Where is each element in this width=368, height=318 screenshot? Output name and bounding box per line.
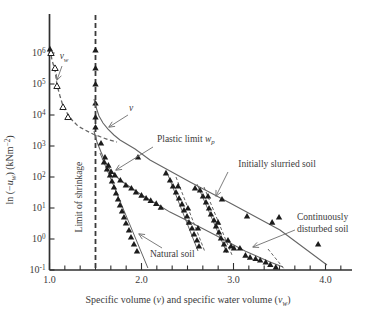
annotation-continuously-disturbed-label-2: disturbed soil <box>297 224 349 234</box>
chart-canvas: 1.02.03.04.010610510410310210110010-1Spe… <box>0 0 368 318</box>
leader-arrow <box>253 230 295 247</box>
triangle-marker <box>47 46 53 52</box>
triangle-marker <box>189 225 195 231</box>
triangle-marker <box>131 241 137 247</box>
series-natural-soil-line <box>100 153 148 268</box>
leader-arrow <box>109 115 128 127</box>
triangle-marker <box>197 187 203 193</box>
triangle-marker <box>191 231 197 237</box>
triangle-marker <box>184 213 190 219</box>
y-tick-label-10e0: 100 <box>32 233 46 245</box>
suction-specific-volume-figure: 1.02.03.04.010610510410310210110010-1Spe… <box>0 0 368 318</box>
y-tick-label-10e5: 105 <box>32 78 46 90</box>
y-tick-label-10e1: 101 <box>32 202 46 214</box>
y-ticks: 10610510410310210110010-1 <box>30 47 55 276</box>
triangle-marker <box>196 243 202 249</box>
annotation-text-natural-soil-label: Natural soil <box>150 249 195 259</box>
annotation-text-vw-label: vw <box>60 51 69 63</box>
triangle-marker <box>153 200 159 206</box>
triangle-marker <box>109 178 115 184</box>
y-tick-label-10e2: 102 <box>32 171 46 183</box>
annotation-text-continuously-disturbed-label-1: Continuously <box>297 212 348 222</box>
triangle-marker <box>92 65 98 71</box>
y-axis-title: ln (−uw) (kNm−2) <box>4 135 18 204</box>
x-tick-label-3.0: 3.0 <box>227 274 240 285</box>
triangle-marker <box>92 114 98 120</box>
triangle-marker <box>269 219 275 225</box>
annotation-text-continuously-disturbed-label-2: disturbed soil <box>297 224 349 234</box>
triangle-marker <box>117 202 123 208</box>
triangle-marker <box>98 140 104 146</box>
triangle-marker <box>185 205 191 211</box>
annotation-initially-slurried-label: Initially slurried soil <box>216 159 316 196</box>
x-tick-label-4.0: 4.0 <box>319 274 332 285</box>
triangle-marker <box>276 214 282 220</box>
leader-arrow <box>216 172 228 196</box>
x-tick-label-2.0: 2.0 <box>135 274 148 285</box>
triangle-marker <box>237 245 243 251</box>
triangle-marker <box>92 124 98 130</box>
annotation-vw-label: vw <box>57 51 69 80</box>
leader-arrow <box>57 66 62 80</box>
triangle-marker <box>101 159 107 165</box>
annotation-v-label: v <box>109 103 134 127</box>
triangle-marker <box>218 235 224 241</box>
triangle-marker <box>219 196 225 202</box>
annotation-text-shrinkage-limit-label: Limit of shrinkage <box>74 162 84 233</box>
triangle-marker <box>128 234 134 240</box>
triangle-marker <box>223 247 229 253</box>
open-triangle-marker <box>52 65 58 71</box>
y-tick-label-10e3: 103 <box>32 140 46 152</box>
series-v-curve-initially-slurried <box>94 99 327 265</box>
triangle-marker <box>92 47 98 53</box>
triangle-marker <box>113 190 119 196</box>
series-line <box>94 99 327 265</box>
open-triangle-marker <box>60 104 66 110</box>
annotation-text-plastic-limit-label: Plastic limit wp <box>157 134 215 146</box>
triangle-marker <box>170 183 176 189</box>
leader-arrow <box>139 234 162 248</box>
x-tick-label-1.0: 1.0 <box>43 274 56 285</box>
x-axis-title: Specific volume (v) and specific water v… <box>85 294 290 308</box>
triangle-marker <box>163 170 169 176</box>
annotation-plastic-limit-label: Plastic limit wp <box>116 134 215 170</box>
triangle-marker <box>205 193 211 199</box>
triangle-marker <box>167 177 173 183</box>
triangle-marker <box>242 252 248 258</box>
annotation-text-initially-slurried-label: Initially slurried soil <box>238 159 316 169</box>
triangle-marker <box>115 196 121 202</box>
annotation-natural-soil-label: Natural soil <box>139 234 195 259</box>
y-tick-label-10e4: 104 <box>32 109 46 121</box>
annotation-shrinkage-limit-label: Limit of shrinkage <box>74 162 84 233</box>
open-triangle-marker <box>54 83 60 89</box>
triangle-marker <box>134 248 140 254</box>
triangle-marker <box>92 81 98 87</box>
y-tick-label-10e6: 106 <box>32 47 46 59</box>
triangle-marker <box>111 184 117 190</box>
annotation-text-v-label: v <box>129 103 134 113</box>
triangle-marker <box>175 183 181 189</box>
triangle-marker <box>315 241 321 247</box>
open-triangle-marker <box>65 114 71 120</box>
x-ticks: 1.02.03.04.0 <box>43 263 341 285</box>
